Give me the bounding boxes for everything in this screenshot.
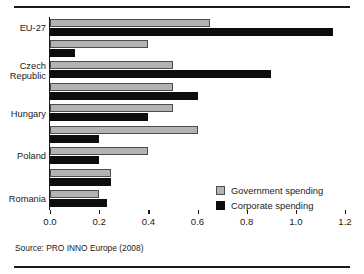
legend-label: Corporate spending	[231, 200, 313, 211]
category-label: Poland	[0, 151, 46, 161]
chart-legend: Government spendingCorporate spending	[216, 184, 356, 214]
axis-tick-label: 1.2	[338, 216, 351, 227]
axis-tick-label: 0.6	[191, 216, 204, 227]
legend-swatch-icon	[216, 201, 225, 210]
source-note: Source: PRO INNO Europe (2008)	[15, 243, 143, 253]
axis-tick-mark	[198, 210, 199, 214]
bar-corporate-spending	[50, 178, 111, 186]
bar-government-spending	[50, 147, 148, 155]
bar-corporate-spending	[50, 28, 333, 36]
category-label: Romania	[0, 194, 46, 204]
bar-corporate-spending	[50, 49, 75, 57]
bar-government-spending	[50, 19, 210, 27]
bottom-rule	[14, 266, 350, 268]
bar-government-spending	[50, 169, 111, 177]
bar-corporate-spending	[50, 70, 271, 78]
bar-government-spending	[50, 83, 173, 91]
axis-tick-label: 0.2	[92, 216, 105, 227]
category-axis-labels: EU-27Czech RepublicHungaryPolandRomania	[0, 17, 46, 210]
bar-government-spending	[50, 104, 173, 112]
axis-tick-label: 0.8	[240, 216, 253, 227]
bar-group	[50, 103, 345, 124]
axis-tick-mark	[50, 210, 51, 214]
category-label: Czech Republic	[0, 61, 46, 81]
bar-corporate-spending	[50, 156, 99, 164]
category-label: Hungary	[0, 109, 46, 119]
bar-corporate-spending	[50, 92, 198, 100]
bar-corporate-spending	[50, 113, 148, 121]
figure-container: EU-27Czech RepublicHungaryPolandRomania …	[0, 0, 364, 274]
bar-group	[50, 38, 345, 59]
axis-tick-mark	[99, 210, 100, 214]
legend-item: Government spending	[216, 184, 356, 197]
bar-group	[50, 81, 345, 102]
legend-item: Corporate spending	[216, 199, 356, 212]
legend-swatch-icon	[216, 186, 225, 195]
plot-area	[50, 17, 345, 210]
bar-corporate-spending	[50, 135, 99, 143]
axis-tick-label: 1.0	[289, 216, 302, 227]
bar-government-spending	[50, 190, 99, 198]
bar-group	[50, 146, 345, 167]
legend-label: Government spending	[231, 185, 323, 196]
axis-tick-label: 0.0	[43, 216, 56, 227]
axis-tick-label: 0.4	[142, 216, 155, 227]
bar-group	[50, 60, 345, 81]
top-rule	[14, 6, 350, 8]
bar-government-spending	[50, 40, 148, 48]
bar-government-spending	[50, 126, 198, 134]
bar-corporate-spending	[50, 199, 107, 207]
category-label: EU-27	[0, 23, 46, 33]
axis-tick-mark	[148, 210, 149, 214]
bar-group	[50, 17, 345, 38]
bar-government-spending	[50, 61, 173, 69]
bar-group	[50, 124, 345, 145]
